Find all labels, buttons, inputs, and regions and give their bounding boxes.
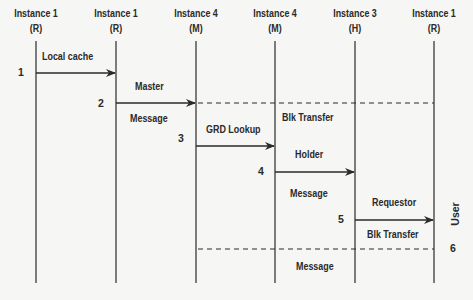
label-message-2: Message: [130, 112, 168, 124]
label-grd-lookup: GRD Lookup: [206, 123, 261, 135]
label-local-cache: Local cache: [42, 50, 93, 62]
step-number-2: 2: [98, 97, 104, 109]
diagram-lines: [0, 0, 473, 300]
label-message-4: Message: [290, 187, 328, 199]
label-blk-transfer-1: Blk Transfer: [282, 111, 334, 123]
label-blk-transfer-2: Blk Transfer: [367, 228, 419, 240]
label-user: User: [449, 202, 461, 225]
label-requestor: Requestor: [372, 196, 416, 208]
label-holder: Holder: [295, 148, 323, 160]
step-number-6: 6: [450, 242, 456, 254]
step-number-3: 3: [178, 132, 184, 144]
step-number-4: 4: [258, 165, 264, 177]
step-number-1: 1: [18, 66, 24, 78]
label-message-6: Message: [296, 260, 334, 272]
label-master: Master: [135, 80, 164, 92]
step-number-5: 5: [338, 213, 344, 225]
